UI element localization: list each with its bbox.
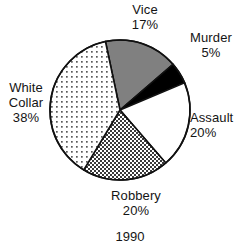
- pie-label-murder: Murder 5%: [176, 30, 246, 60]
- pie-label-vice-name: Vice: [106, 2, 184, 17]
- pie-label-vice-value: 17%: [106, 17, 184, 32]
- pie-slice-group: [50, 40, 190, 180]
- pie-label-assault-name: Assault: [190, 110, 247, 125]
- pie-chart: Vice 17% Murder 5% Assault 20% Robbery 2…: [0, 0, 247, 242]
- pie-label-robbery-name: Robbery: [96, 188, 176, 203]
- pie-label-assault: Assault 20%: [190, 110, 247, 140]
- pie-label-murder-name: Murder: [176, 30, 246, 45]
- pie-label-white-collar-name-line1: White: [0, 80, 52, 95]
- pie-label-white-collar-name-line2: Collar: [0, 95, 52, 110]
- pie-label-white-collar-value: 38%: [0, 110, 52, 125]
- pie-label-robbery-value: 20%: [96, 203, 176, 218]
- pie-label-white-collar: White Collar 38%: [0, 80, 52, 125]
- pie-label-robbery: Robbery 20%: [96, 188, 176, 218]
- pie-label-murder-value: 5%: [176, 45, 246, 60]
- pie-label-vice: Vice 17%: [106, 2, 184, 32]
- pie-label-assault-value: 20%: [190, 125, 247, 140]
- chart-caption: 1990: [90, 229, 170, 242]
